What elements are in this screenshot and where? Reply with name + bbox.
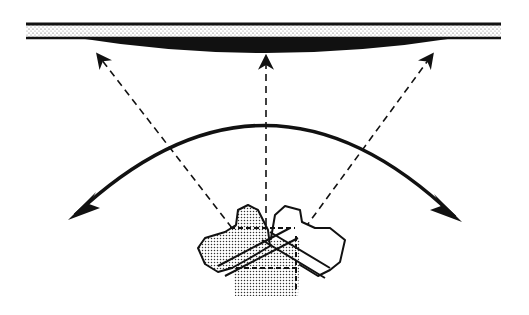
left-beam [98, 55, 232, 228]
surface-layer [26, 24, 501, 38]
right-beam [305, 55, 432, 228]
diagram-canvas [0, 0, 529, 315]
transducer-device [198, 205, 345, 296]
deposit-lens [78, 38, 455, 53]
sweep-arc-arrow [68, 125, 462, 222]
beam-lines [98, 55, 432, 228]
